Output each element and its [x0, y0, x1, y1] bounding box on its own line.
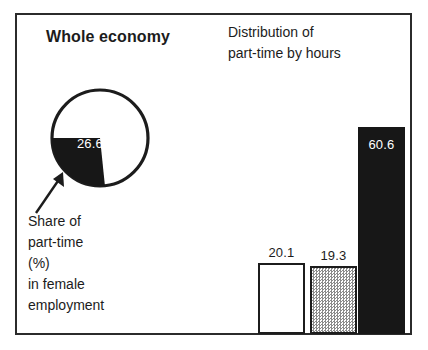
bar-2 — [310, 266, 357, 334]
left-panel-title: Whole economy — [46, 28, 216, 46]
bar-2-value-label: 19.3 — [310, 248, 357, 263]
annotation-line-3: (%) — [28, 253, 178, 274]
bar-3 — [358, 127, 405, 334]
bar-chart: 20.1 19.3 60.6 — [250, 100, 412, 334]
right-panel-title-line-2: part-time by hours — [228, 43, 408, 64]
right-panel-title-line-1: Distribution of — [228, 22, 408, 43]
bar-3-value-label: 60.6 — [358, 137, 405, 152]
annotation-line-5: employment — [28, 295, 178, 316]
annotation-line-4: in female — [28, 274, 178, 295]
pie-annotation-text: Share of part-time (%) in female employm… — [28, 211, 178, 316]
bar-1 — [258, 263, 305, 334]
annotation-line-1: Share of — [28, 211, 178, 232]
annotation-line-2: part-time — [28, 232, 178, 253]
right-panel-title: Distribution of part-time by hours — [228, 22, 408, 64]
figure-container: Whole economy 26.6 Share of part-time (%… — [0, 0, 428, 350]
bar-1-value-label: 20.1 — [258, 245, 305, 260]
